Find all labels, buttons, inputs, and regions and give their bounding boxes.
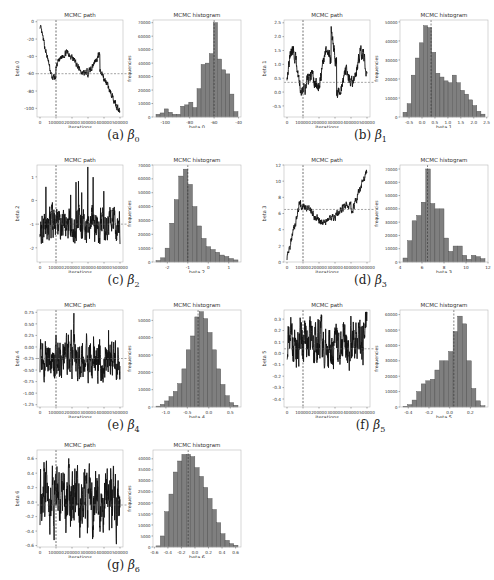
histogram-bar <box>408 405 413 407</box>
trace-plot-title: MCMC path <box>64 442 96 449</box>
histogram-bar <box>233 260 238 262</box>
histogram-bar <box>206 247 211 262</box>
histogram-bar <box>161 258 166 262</box>
histogram-bar <box>460 90 464 117</box>
y-tick-label: 40000 <box>138 335 151 340</box>
x-tick-label: 400000 <box>96 120 112 125</box>
histogram-bar <box>465 94 469 117</box>
y-tick-label: -0.50 <box>23 368 34 373</box>
caption-subscript: 3 <box>382 280 387 289</box>
caption-symbol: β <box>375 128 382 142</box>
x-tick-label: 0.2 <box>205 550 212 555</box>
y-tick-label: -0.2 <box>273 374 282 379</box>
y-tick-label: 0 <box>148 260 151 265</box>
x-tick-label: 2.0 <box>470 120 477 125</box>
histogram-bar <box>174 200 179 262</box>
y-tick-label: 20000 <box>138 88 151 93</box>
y-tick-label: 10000 <box>385 246 398 251</box>
caption-label: (b) <box>354 128 375 142</box>
trace-plot: MCMC path-0.50.00.51.01.52.02.5010000020… <box>261 12 375 128</box>
y-tick-label: 1 <box>31 175 34 180</box>
histogram-bar <box>421 384 426 407</box>
histogram-bar <box>456 83 460 117</box>
y-tick-label: 35000 <box>138 467 151 472</box>
y-axis-label: beta 3 <box>261 205 267 221</box>
histogram-bar <box>473 106 477 117</box>
x-tick-label: 400000 <box>96 410 112 415</box>
caption-label: (f) <box>356 418 374 432</box>
y-tick-label: 20000 <box>138 370 151 375</box>
y-tick-label: 0.00 <box>24 345 34 350</box>
y-tick-label: 0.0 <box>27 500 34 505</box>
histogram-bar <box>170 223 175 262</box>
histogram-bar <box>435 370 440 407</box>
y-tick-label: 20000 <box>385 233 398 238</box>
x-tick-label: 100000 <box>295 120 311 125</box>
x-tick-label: -100 <box>160 120 170 125</box>
trace-plot-title: MCMC path <box>311 12 343 19</box>
y-tick-label: 0.2 <box>274 328 281 333</box>
subfigure-g: MCMC path0.60.40.20.0-0.2-0.4-0.60100000… <box>0 430 247 575</box>
y-tick-label: 0.1 <box>274 340 281 345</box>
histogram-bar <box>471 389 476 407</box>
x-tick-label: 100000 <box>48 265 64 270</box>
x-tick-label: -2 <box>165 265 170 270</box>
histogram-bar <box>156 114 160 117</box>
y-tick-label: 0.4 <box>27 471 34 476</box>
subfigure-plots: MCMC path0.30.20.10.0-0.1-0.2-0.3-0.4010… <box>247 290 494 418</box>
x-tick-label: 400000 <box>343 410 359 415</box>
histogram-bar <box>230 94 234 117</box>
y-tick-label: 70000 <box>138 163 151 168</box>
y-tick-label: 0.75 <box>24 310 34 315</box>
histogram-bar <box>216 369 220 407</box>
histogram-bar <box>186 350 190 407</box>
histogram-bar <box>408 241 413 262</box>
histogram-bar <box>216 523 220 547</box>
histogram-bar <box>439 361 444 407</box>
x-tick-label: 0 <box>39 120 42 125</box>
caption-subscript: 0 <box>135 135 140 144</box>
histogram-bar <box>411 75 415 117</box>
y-tick-label: 30000 <box>385 358 398 363</box>
y-axis-label: frequencies <box>127 345 132 372</box>
histogram-bar <box>415 58 419 117</box>
histogram-bar <box>179 176 184 262</box>
subfigure-f: MCMC path0.30.20.10.0-0.1-0.2-0.3-0.4010… <box>247 290 494 435</box>
trace-plot: MCMC path10-1-20100000200000300000400000… <box>14 157 128 273</box>
y-tick-label: 1.0 <box>274 62 281 67</box>
y-axis-label: frequencies <box>374 55 379 82</box>
x-tick-label: -0.2 <box>177 550 186 555</box>
x-tick-label: 0 <box>207 265 210 270</box>
x-tick-label: 2.5 <box>483 120 490 125</box>
y-tick-label: 2 <box>278 244 281 249</box>
y-tick-label: 0.25 <box>24 333 34 338</box>
subfigure-c: MCMC path10-1-20100000200000300000400000… <box>0 145 247 290</box>
y-tick-label: -2 <box>30 246 35 251</box>
subfigure-caption: (a) β0 <box>0 128 247 144</box>
x-tick-label: -0.4 <box>164 550 173 555</box>
histogram-bar <box>172 114 176 117</box>
caption-subscript: 5 <box>380 425 385 434</box>
subfigure-plots: MCMC path0-20-40-60-80-10001000002000003… <box>0 0 247 128</box>
y-tick-label: 60000 <box>138 176 151 181</box>
trace-line <box>287 170 367 260</box>
y-tick-label: 8 <box>278 195 281 200</box>
histogram-bar <box>234 112 238 117</box>
y-tick-label: -80 <box>27 89 34 94</box>
histogram-bar <box>417 392 422 407</box>
trace-line <box>40 25 120 112</box>
x-tick-label: 0.2 <box>467 410 474 415</box>
x-tick-label: 500000 <box>112 550 128 555</box>
y-axis-label: beta 0 <box>14 60 20 76</box>
y-axis-label: beta 4 <box>14 350 20 366</box>
y-tick-label: 10000 <box>138 246 151 251</box>
histogram-bar <box>221 534 225 547</box>
histogram-plot: MCMC histogram01000020000300004000050000… <box>374 302 488 418</box>
caption-label: (g) <box>107 558 128 572</box>
y-tick-label: 0 <box>31 198 34 203</box>
subfigure-plots: MCMC path10-1-20100000200000300000400000… <box>0 145 247 273</box>
x-tick-label: 1.5 <box>457 120 464 125</box>
histogram-bar <box>178 461 182 547</box>
x-tick-label: 0 <box>39 265 42 270</box>
y-tick-label: -0.3 <box>273 385 282 390</box>
